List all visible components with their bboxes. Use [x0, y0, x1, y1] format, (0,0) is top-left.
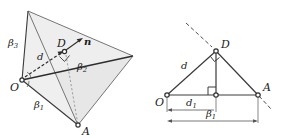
- node-origin-right: [165, 93, 169, 97]
- label-point-a-left: A: [82, 126, 90, 137]
- label-distance-d-left: d: [37, 52, 43, 62]
- label-beta2: β2: [77, 62, 87, 73]
- node-foot-of-perpendicular: [214, 93, 218, 97]
- node-point-d-left: [62, 49, 66, 53]
- label-distance-d1: d1: [186, 98, 197, 109]
- extension-line-lower-dashed: [259, 96, 271, 109]
- dimension-arrow-beta1-right: [253, 119, 258, 123]
- dimension-arrow-d1-left: [167, 108, 172, 112]
- right-angle-marker-at-d-right: [211, 57, 220, 62]
- node-origin-left: [20, 78, 24, 82]
- dimension-arrow-beta1-left: [167, 119, 172, 123]
- extension-line-upper-dashed: [186, 23, 212, 47]
- right-panel-geometry: [165, 23, 271, 123]
- label-point-a-right: A: [263, 82, 271, 93]
- label-origin-right: O: [155, 97, 164, 108]
- label-distance-d-right: d: [181, 61, 187, 71]
- figure-canvas: [0, 0, 287, 138]
- segment-d-to-a: [216, 51, 258, 95]
- label-beta1-left: β1: [34, 100, 44, 111]
- segment-o-to-d: [167, 51, 216, 95]
- geometry-figure: β3 O β1 A D n d β2 O A D d d1 β1: [0, 0, 287, 138]
- label-point-d-left: D: [57, 38, 66, 49]
- label-origin-left: O: [10, 82, 19, 93]
- label-point-d-right: D: [221, 39, 230, 50]
- label-normal-vector-n: n: [84, 37, 91, 47]
- label-beta1-right: β1: [206, 109, 216, 120]
- node-point-a-right: [256, 93, 260, 97]
- label-beta3: β3: [8, 38, 18, 49]
- node-point-a-left: [76, 123, 80, 127]
- node-point-d-right: [214, 49, 218, 53]
